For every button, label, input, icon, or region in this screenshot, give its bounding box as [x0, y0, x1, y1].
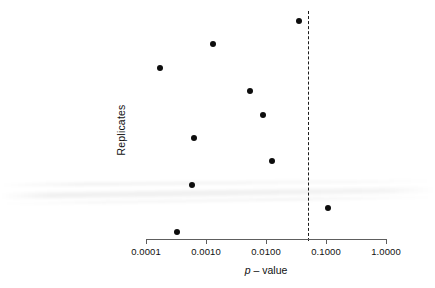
- scan-artifact-streak: [0, 196, 435, 206]
- scan-artifact-streak: [0, 179, 435, 187]
- data-point: [296, 18, 302, 24]
- data-point: [189, 182, 195, 188]
- y-axis-title: Replicates: [115, 104, 127, 155]
- x-axis-tick-label: 0.0001: [131, 246, 161, 257]
- data-point: [191, 135, 197, 141]
- data-point: [247, 88, 253, 94]
- x-axis-tick-label: 1.0000: [371, 246, 401, 257]
- data-point: [210, 41, 216, 47]
- x-axis-tick: [146, 239, 147, 244]
- scatter-plot-figure: 0.00010.00100.01000.10001.0000 p – value…: [0, 0, 435, 288]
- data-point: [174, 229, 180, 235]
- x-axis-title: p – value: [245, 264, 288, 276]
- x-axis-tick-label: 0.0010: [191, 246, 221, 257]
- x-axis-tick: [266, 239, 267, 244]
- significance-threshold-line: [308, 11, 309, 241]
- data-point: [269, 158, 275, 164]
- x-axis-tick: [386, 239, 387, 244]
- x-axis-tick: [206, 239, 207, 244]
- x-axis-tick: [326, 239, 327, 244]
- plot-area: 0.00010.00100.01000.10001.0000 p – value…: [0, 0, 435, 288]
- scan-artifact-streak: [0, 187, 435, 199]
- data-point: [260, 112, 266, 118]
- data-point: [157, 65, 163, 71]
- x-axis-title-rest: – value: [251, 264, 288, 276]
- x-axis-tick-label: 0.0100: [251, 246, 281, 257]
- data-point: [325, 205, 331, 211]
- x-axis-tick-label: 0.1000: [311, 246, 341, 257]
